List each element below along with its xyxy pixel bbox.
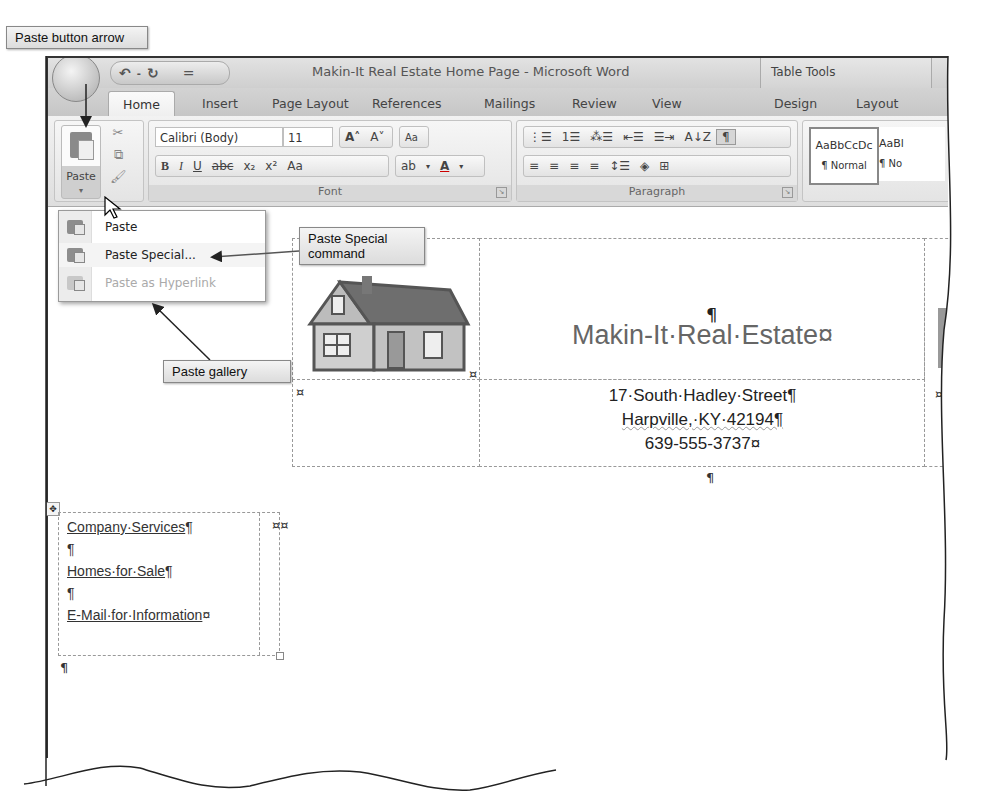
mouse-pointer-icon	[104, 196, 122, 220]
callout-paste-gallery: Paste gallery	[163, 360, 291, 383]
callout-leader-lines	[0, 0, 981, 811]
callout-paste-special-command: Paste Special command	[299, 227, 425, 265]
callout-paste-button-arrow: Paste button arrow	[6, 26, 148, 49]
